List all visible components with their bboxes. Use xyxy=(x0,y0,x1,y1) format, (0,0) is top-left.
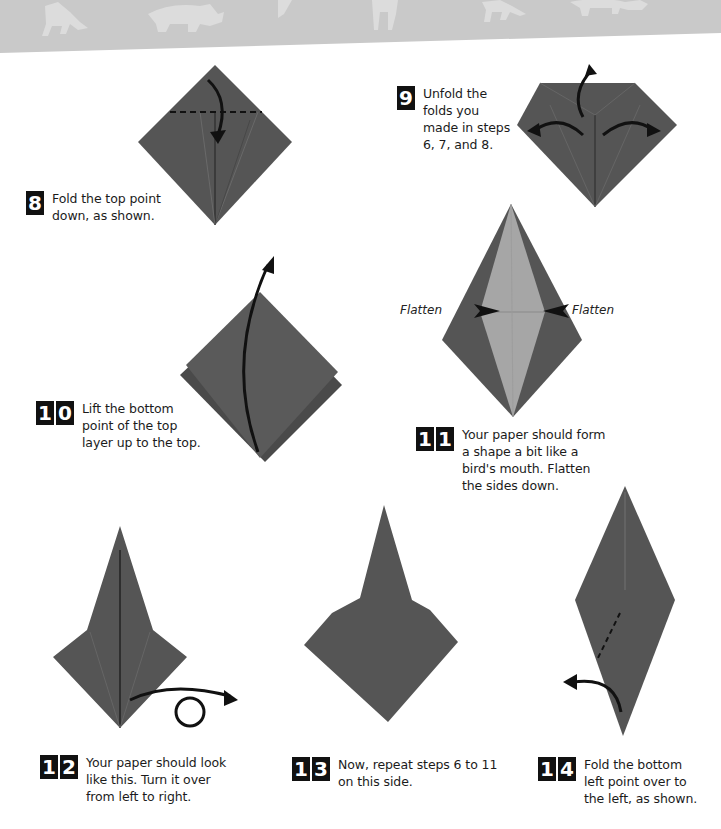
step-number-digit: 3 xyxy=(312,757,330,781)
step-12-instruction: Your paper should look like this. Turn i… xyxy=(86,754,226,805)
step-number-digit: 8 xyxy=(26,191,44,215)
step-14-diagram xyxy=(555,480,721,740)
step-10-instruction: Lift the bottom point of the top layer u… xyxy=(82,400,201,451)
step-8-instruction: Fold the top point down, as shown. xyxy=(52,190,161,224)
step-number-digit: 9 xyxy=(397,86,415,110)
step-number-digit: 4 xyxy=(558,757,576,781)
paper-top-layer xyxy=(186,292,338,458)
step-13-number-badge: 1 3 xyxy=(292,757,330,781)
flatten-left-arrow-icon xyxy=(474,303,500,319)
step-number-digit: 1 xyxy=(36,401,54,425)
step-13: 1 3 Now, repeat steps 6 to 11 on this si… xyxy=(292,756,497,790)
step-14-instruction: Fold the bottom left point over to the l… xyxy=(584,756,697,807)
step-number-digit: 1 xyxy=(416,427,434,451)
flatten-right-arrow-icon xyxy=(543,303,569,319)
step-14-number-badge: 1 4 xyxy=(538,757,576,781)
step-11-number-badge: 1 1 xyxy=(416,427,454,451)
step-9-number-badge: 9 xyxy=(397,86,415,110)
step-number-digit: 1 xyxy=(538,757,556,781)
flatten-left-label: Flatten xyxy=(400,303,442,317)
step-9: 9 Unfold the folds you made in steps 6, … xyxy=(397,85,510,153)
step-12-number-badge: 1 2 xyxy=(40,755,78,779)
step-number-digit: 0 xyxy=(56,401,74,425)
step-14: 1 4 Fold the bottom left point over to t… xyxy=(538,756,697,807)
step-13-instruction: Now, repeat steps 6 to 11 on this side. xyxy=(338,756,497,790)
step-13-diagram xyxy=(300,500,480,725)
step-number-digit: 1 xyxy=(40,755,58,779)
step-10-number-badge: 1 0 xyxy=(36,401,74,425)
step-number-digit: 1 xyxy=(436,427,454,451)
step-9-instruction: Unfold the folds you made in steps 6, 7,… xyxy=(423,85,510,153)
paper-shape xyxy=(304,505,458,722)
step-8-number-badge: 8 xyxy=(26,191,44,215)
header-decoration-band xyxy=(0,0,721,56)
step-10: 1 0 Lift the bottom point of the top lay… xyxy=(36,400,201,451)
step-9-arrowhead xyxy=(581,64,601,78)
paper-kite xyxy=(517,83,677,207)
flatten-right-label: Flatten xyxy=(572,303,614,317)
step-8: 8 Fold the top point down, as shown. xyxy=(26,190,161,224)
step-12: 1 2 Your paper should look like this. Tu… xyxy=(40,754,226,805)
step-number-digit: 2 xyxy=(60,755,78,779)
step-9-diagram xyxy=(505,75,690,210)
step-12-diagram xyxy=(50,520,250,735)
step-number-digit: 1 xyxy=(292,757,310,781)
